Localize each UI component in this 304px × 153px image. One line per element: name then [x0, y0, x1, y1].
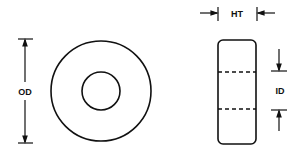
- id-bottom-arrow-icon: [277, 111, 281, 117]
- od-bottom-arrow-icon: [23, 136, 27, 142]
- side-view: [218, 40, 256, 144]
- inner-circle: [82, 72, 120, 110]
- id-top-arrow-icon: [277, 64, 281, 70]
- id-label: ID: [276, 86, 286, 96]
- ht-left-arrow-icon: [211, 11, 217, 15]
- toroid-dimension-diagram: OD HT ID: [0, 0, 304, 153]
- outer-circle: [51, 41, 151, 141]
- od-top-arrow-icon: [23, 40, 27, 46]
- od-label: OD: [18, 87, 32, 97]
- side-rect: [218, 40, 256, 144]
- ht-right-arrow-icon: [258, 11, 264, 15]
- ht-label: HT: [231, 9, 243, 19]
- front-view: [51, 41, 151, 141]
